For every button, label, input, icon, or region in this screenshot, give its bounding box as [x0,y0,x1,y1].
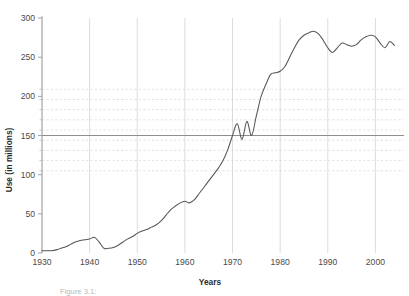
svg-text:1980: 1980 [271,257,290,267]
svg-text:100: 100 [21,170,36,180]
chart-container: 050100150200250300 193019401950196019701… [0,0,409,296]
svg-text:200: 200 [21,91,36,101]
y-axis-title: Use (in millions) [4,127,14,192]
y-axis-tick-labels: 050100150200250300 [21,13,42,258]
svg-text:1930: 1930 [32,257,51,267]
svg-text:1990: 1990 [318,257,337,267]
line-chart: 050100150200250300 193019401950196019701… [0,0,409,296]
dashed-horizontal-gridlines [42,89,404,170]
svg-text:300: 300 [21,13,36,23]
svg-text:2000: 2000 [366,257,385,267]
svg-text:1960: 1960 [175,257,194,267]
svg-text:250: 250 [21,52,36,62]
data-series-line [42,31,394,250]
figure-caption: Figure 3.1: [60,287,96,296]
svg-text:1940: 1940 [80,257,99,267]
svg-text:1970: 1970 [223,257,242,267]
x-axis-title: Years [199,277,222,287]
svg-text:150: 150 [21,131,36,141]
svg-text:1950: 1950 [128,257,147,267]
svg-text:50: 50 [25,209,35,219]
x-axis-tick-labels: 19301940195019601970198019902000 [32,257,385,267]
